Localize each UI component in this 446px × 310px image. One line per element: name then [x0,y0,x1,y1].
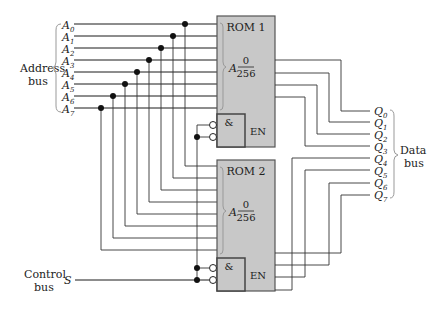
rom2-invert-bubble-1 [210,265,217,272]
rom1-title: ROM 1 [226,21,265,34]
address-wires-rom1 [74,24,217,108]
data-bus-brace [390,110,398,198]
rom1-gate-symbol: & [225,117,234,128]
rom1-invert-bubble-1 [210,122,217,129]
data-bus-label: Data bus [400,144,427,170]
data-line-labels: Q0 Q1 Q2 Q3 Q4 Q5 Q6 Q7 [374,105,388,204]
address-bus-label-line2: bus [28,75,48,88]
rom1-block: ROM 1 A 0 256 & EN [210,16,276,147]
address-line-labels: A0 A1 A2 A3 A4 A5 A6 A7 [61,19,75,118]
address-junction-dots [98,21,188,111]
address-bus-label: Address bus [19,62,65,88]
data-bus-label-line2: bus [404,157,424,170]
control-signal-s: S [64,274,72,287]
rom1-range-bottom: 256 [236,68,255,79]
rom1-range-top: 0 [243,55,249,66]
rom2-range-bottom: 256 [236,212,255,223]
data-bus-label-line1: Data [400,144,427,157]
rom2-range-top: 0 [243,199,249,210]
rom1-invert-bubble-2 [210,134,217,141]
rom2-enable-label: EN [250,270,266,281]
rom2-title: ROM 2 [226,165,265,178]
control-bus-label: Control bus S [24,268,72,294]
data-wires [275,60,370,290]
rom-expansion-diagram: Address bus A0 A1 A2 A3 A4 A5 A6 A7 [0,0,446,310]
rom2-block: ROM 2 A 0 256 & EN [210,160,276,291]
control-bus-label-line2: bus [34,281,54,294]
rom1-enable-label: EN [250,126,266,137]
control-wiring [75,125,209,283]
rom2-invert-bubble-2 [210,277,217,284]
address-bus-label-line1: Address [19,62,65,75]
control-bus-label-line1: Control [24,268,66,281]
rom2-gate-symbol: & [225,261,234,272]
